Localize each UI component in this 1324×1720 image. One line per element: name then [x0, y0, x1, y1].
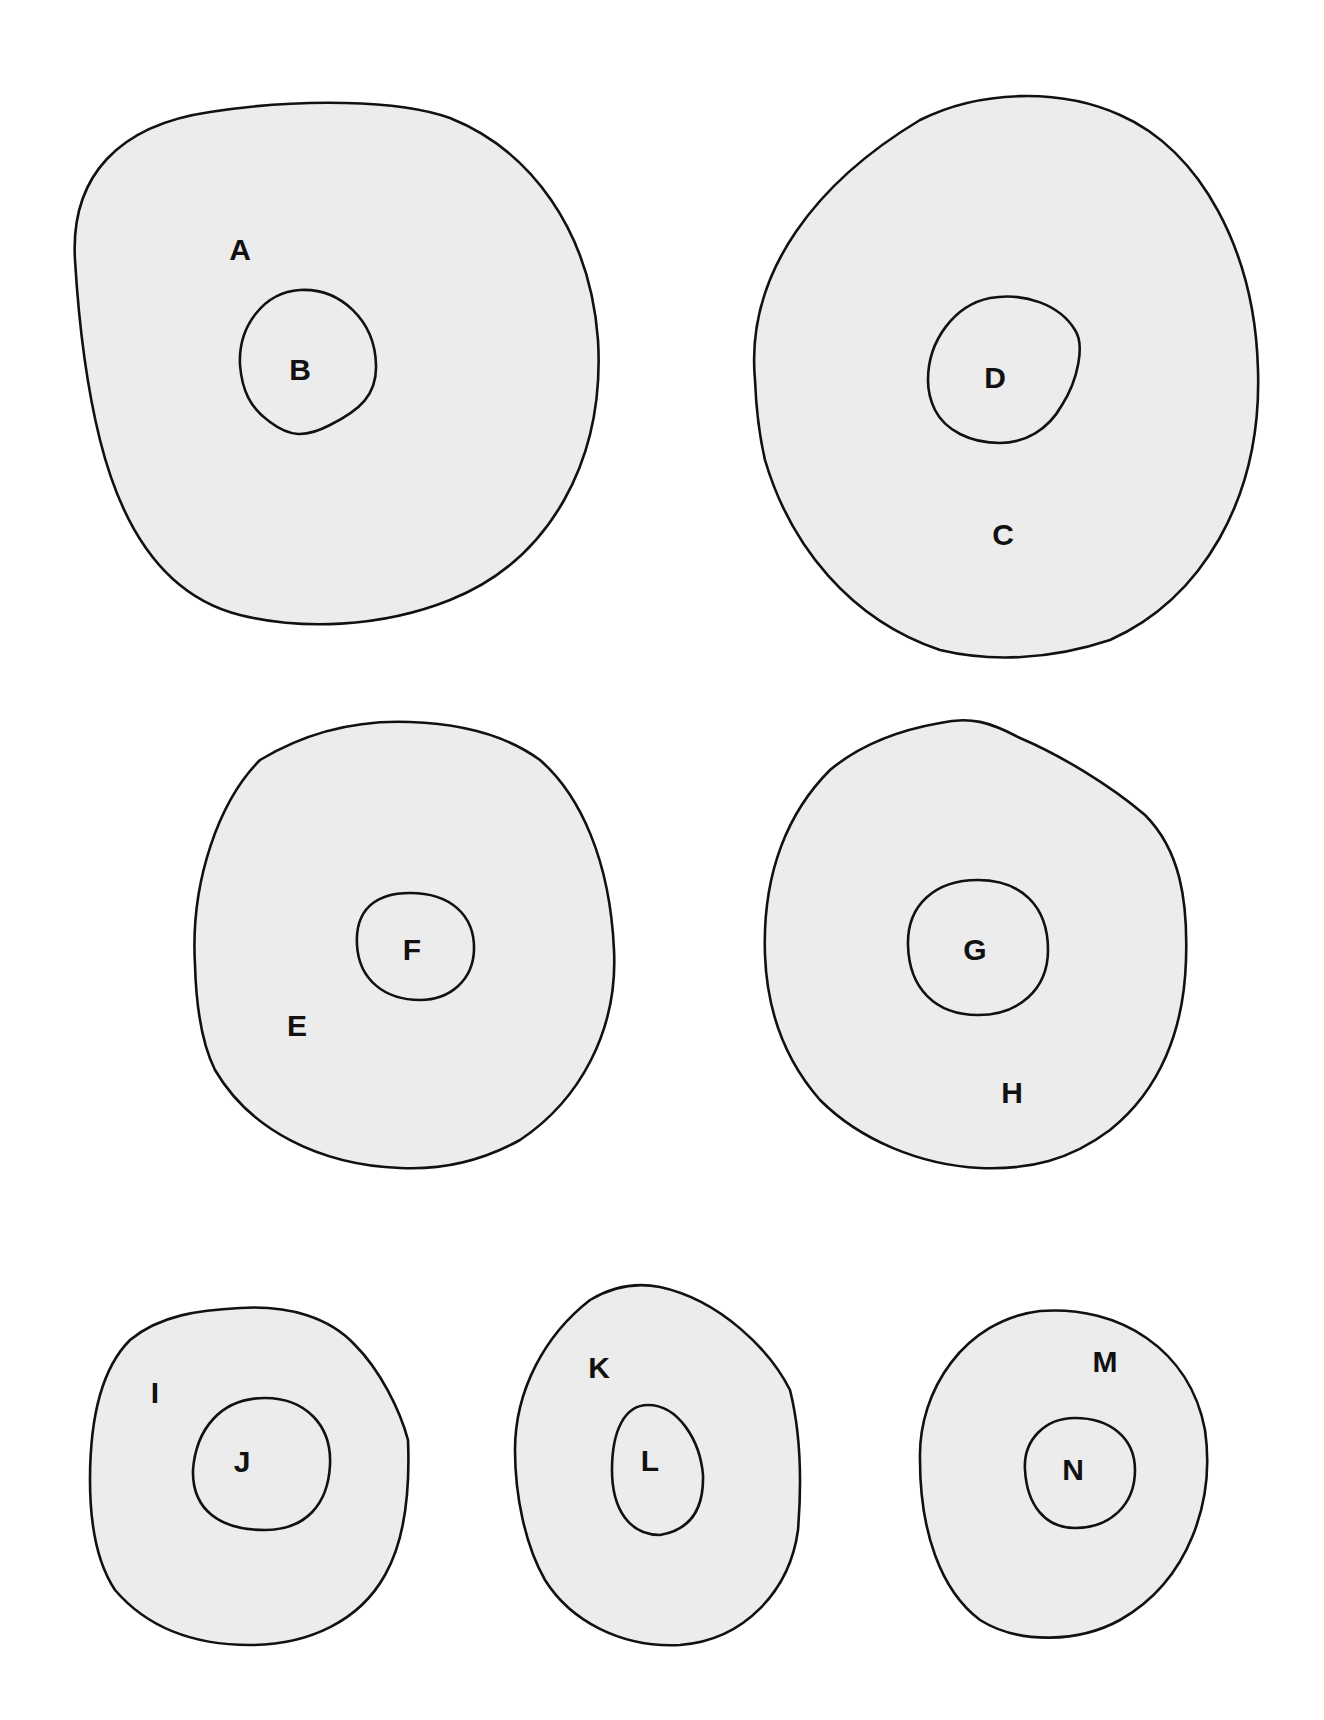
label-j: J — [234, 1445, 251, 1478]
cell-group-ij: I J — [90, 1308, 408, 1645]
cell-group-gh: H G — [765, 720, 1187, 1168]
cell-group-ef: E F — [194, 722, 614, 1169]
label-k: K — [588, 1351, 610, 1384]
cell-group-ab: A B — [75, 103, 599, 624]
cell-group-mn: M N — [920, 1310, 1207, 1637]
label-d: D — [984, 361, 1006, 394]
cell-group-kl: K L — [515, 1285, 800, 1645]
nucleus-j — [193, 1398, 330, 1530]
label-f: F — [403, 933, 421, 966]
label-n: N — [1062, 1453, 1084, 1486]
label-a: A — [229, 233, 251, 266]
diagram-canvas: A B C D E F H G I J K L M N — [0, 0, 1324, 1720]
label-l: L — [641, 1444, 659, 1477]
label-m: M — [1093, 1345, 1118, 1378]
label-i: I — [151, 1376, 159, 1409]
label-c: C — [992, 518, 1014, 551]
label-g: G — [963, 933, 986, 966]
cell-group-cd: C D — [754, 96, 1258, 657]
label-b: B — [289, 353, 311, 386]
label-e: E — [287, 1009, 307, 1042]
label-h: H — [1001, 1076, 1023, 1109]
